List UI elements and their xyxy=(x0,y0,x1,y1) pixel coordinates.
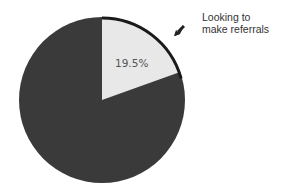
percent-label: 19.5% xyxy=(115,57,148,69)
arrow-icon xyxy=(173,25,185,37)
callout-label: Looking to make referrals xyxy=(202,11,269,35)
